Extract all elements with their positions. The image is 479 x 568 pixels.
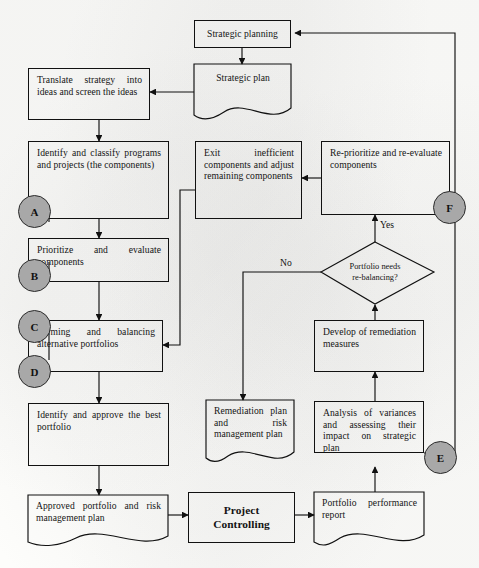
node-project-controlling-label: Project Controlling [195,504,288,531]
connector-c[interactable]: C [18,310,51,343]
edge-decision-no-to-remediation [243,272,321,400]
edge-label-no: No [280,257,292,268]
connector-e-label: E [437,452,444,464]
node-strategic-plan-label: Strategic plan [202,72,284,84]
node-approved-portfolio[interactable]: Approved portfolio and risk management p… [28,495,168,547]
node-identify-classify-label: Identify and classify programs and proje… [37,147,161,170]
node-portfolio-report-label: Portfolio performance report [322,497,417,520]
edge-label-yes-text: Yes [380,219,394,230]
node-translate-strategy-label: Translate strategy into ideas and screen… [37,74,142,97]
node-project-controlling[interactable]: Project Controlling [188,492,295,543]
node-develop-remediation-label: Develop of remediation measures [323,326,416,349]
connector-f-label: F [446,202,453,214]
node-remediation-plan-label: Remediation plan and risk management pla… [214,405,287,440]
flowchart-canvas: Strategic planning Strategic plan Transl… [0,0,479,568]
connector-c-label: C [31,321,39,333]
connector-d-label: D [31,366,39,378]
node-reprioritize[interactable]: Re-prioritize and re-evaluate components [321,141,450,215]
connector-d[interactable]: D [18,355,51,388]
connector-a[interactable]: A [18,195,51,228]
edge-label-no-text: No [280,257,292,268]
node-strategic-plan[interactable]: Strategic plan [194,64,291,110]
decision-label-line1: Portfolio needs [334,261,416,272]
node-forming-balancing-label: Forming and balancing alternative portfo… [37,326,155,349]
connector-a-label: A [31,206,39,218]
connector-b[interactable]: B [18,259,51,292]
node-translate-strategy[interactable]: Translate strategy into ideas and screen… [28,68,150,120]
node-exit-inefficient-label: Exit inefficient components and adjust r… [204,147,294,182]
node-portfolio-report[interactable]: Portfolio performance report [314,492,424,542]
connector-b-label: B [31,270,38,282]
node-analysis-variances[interactable]: Analysis of variances and assessing thei… [314,401,424,453]
decision-label-line2: re-balancing? [334,272,416,283]
node-exit-inefficient[interactable]: Exit inefficient components and adjust r… [195,141,302,219]
node-strategic-planning[interactable]: Strategic planning [194,20,291,48]
node-identify-approve[interactable]: Identify and approve the best portfolio [28,403,169,466]
decision-rebalancing-label[interactable]: Portfolio needs re-balancing? [334,261,416,283]
node-develop-remediation[interactable]: Develop of remediation measures [314,320,424,372]
node-reprioritize-label: Re-prioritize and re-evaluate components [330,147,442,170]
connector-f[interactable]: F [433,191,466,224]
node-identify-approve-label: Identify and approve the best portfolio [37,409,161,432]
node-analysis-variances-label: Analysis of variances and assessing thei… [323,407,416,453]
edge-label-yes: Yes [380,219,394,230]
node-approved-portfolio-label: Approved portfolio and risk management p… [36,500,161,523]
node-prioritize-evaluate-label: Prioritize and evaluate components [37,244,161,267]
node-remediation-plan[interactable]: Remediation plan and risk management pla… [206,400,294,455]
connector-e[interactable]: E [424,441,457,474]
node-strategic-planning-label: Strategic planning [201,28,284,40]
